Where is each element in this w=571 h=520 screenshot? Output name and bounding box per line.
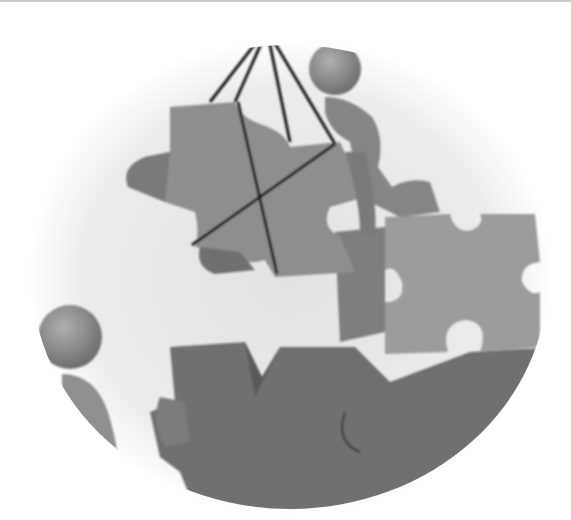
illustration-canvas: Grayscale 3D illustration inside a soft … <box>0 0 571 520</box>
bottom-puzzle-pieces <box>150 342 560 520</box>
puzzle-teamwork-illustration <box>0 2 571 520</box>
